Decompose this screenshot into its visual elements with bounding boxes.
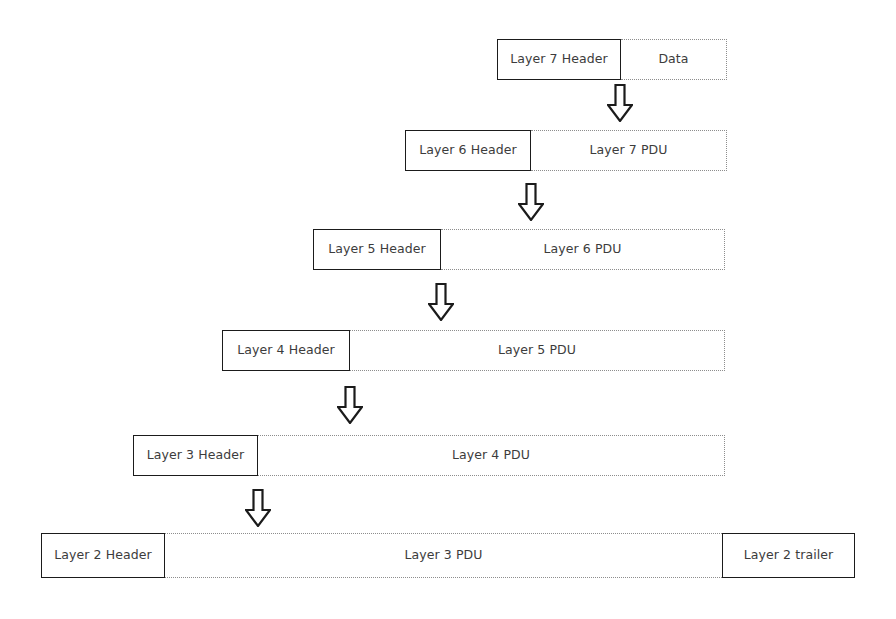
- layer-3-pdu-label: Layer 3 PDU: [404, 549, 482, 562]
- layer-2-row: Layer 2 Header Layer 3 PDU Layer 2 trail…: [41, 533, 855, 578]
- layer-4-pdu-cell: Layer 4 PDU: [258, 435, 725, 476]
- layer-2-header-label: Layer 2 Header: [54, 549, 152, 562]
- arrow-7-to-6-icon: [607, 84, 633, 122]
- layer-2-header-cell: Layer 2 Header: [41, 533, 165, 578]
- layer-4-row: Layer 4 Header Layer 5 PDU: [222, 330, 725, 371]
- arrow-4-to-3-icon: [337, 386, 363, 424]
- layer-7-pdu-cell: Layer 7 PDU: [531, 130, 727, 171]
- layer-7-row: Layer 7 Header Data: [497, 39, 727, 80]
- arrow-3-to-2-icon: [245, 489, 271, 527]
- layer-3-header-cell: Layer 3 Header: [133, 435, 258, 476]
- layer-3-header-label: Layer 3 Header: [147, 449, 245, 462]
- layer-4-pdu-label: Layer 4 PDU: [452, 449, 530, 462]
- layer-7-data-cell: Data: [621, 39, 727, 80]
- arrow-5-to-4-icon: [428, 283, 454, 321]
- layer-4-header-cell: Layer 4 Header: [222, 330, 350, 371]
- layer-5-header-cell: Layer 5 Header: [313, 229, 441, 270]
- layer-2-trailer-cell: Layer 2 trailer: [722, 533, 855, 578]
- layer-6-pdu-label: Layer 6 PDU: [543, 243, 621, 256]
- encapsulation-diagram: Layer 7 Header Data Layer 6 Header Layer…: [0, 0, 896, 619]
- layer-6-pdu-cell: Layer 6 PDU: [441, 229, 725, 270]
- layer-7-header-cell: Layer 7 Header: [497, 39, 621, 80]
- layer-5-row: Layer 5 Header Layer 6 PDU: [313, 229, 725, 270]
- layer-6-header-label: Layer 6 Header: [419, 144, 517, 157]
- layer-5-pdu-label: Layer 5 PDU: [498, 344, 576, 357]
- layer-4-header-label: Layer 4 Header: [237, 344, 335, 357]
- layer-3-pdu-cell: Layer 3 PDU: [165, 533, 722, 578]
- layer-7-pdu-label: Layer 7 PDU: [589, 144, 667, 157]
- layer-6-header-cell: Layer 6 Header: [405, 130, 531, 171]
- layer-2-trailer-label: Layer 2 trailer: [744, 549, 834, 562]
- layer-3-row: Layer 3 Header Layer 4 PDU: [133, 435, 725, 476]
- layer-5-pdu-cell: Layer 5 PDU: [350, 330, 725, 371]
- layer-7-data-label: Data: [658, 53, 688, 66]
- layer-7-header-label: Layer 7 Header: [510, 53, 608, 66]
- layer-6-row: Layer 6 Header Layer 7 PDU: [405, 130, 727, 171]
- layer-5-header-label: Layer 5 Header: [328, 243, 426, 256]
- arrow-6-to-5-icon: [518, 183, 544, 221]
